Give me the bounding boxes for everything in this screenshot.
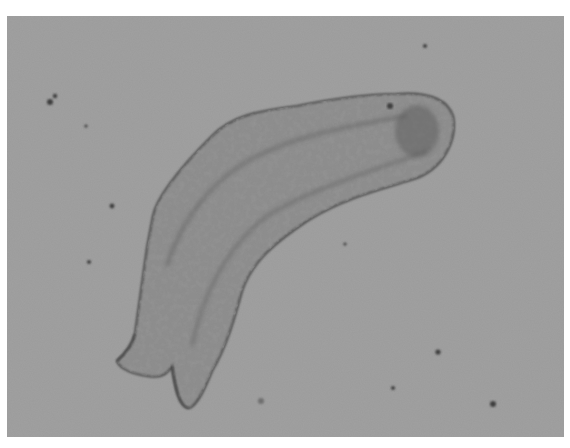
micrograph xyxy=(7,16,564,437)
specimen-illustration xyxy=(7,16,564,437)
